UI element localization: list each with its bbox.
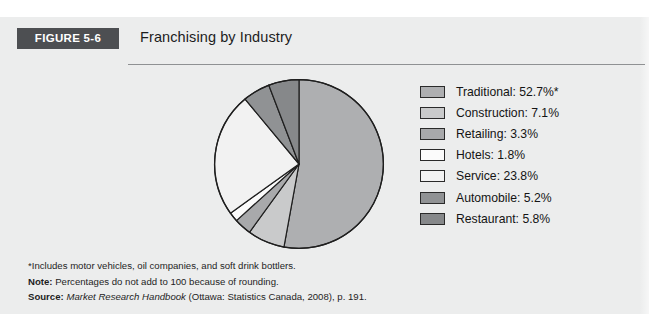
footnote-source: Source: Market Research Handbook (Ottawa… — [28, 289, 588, 305]
figure-number-label: FIGURE 5-6 — [17, 28, 119, 49]
legend-item: Restaurant: 5.8% — [420, 208, 635, 229]
footnote-note-text: Percentages do not add to 100 because of… — [55, 276, 279, 287]
legend-item: Automobile: 5.2% — [420, 187, 635, 208]
footnote-source-title: Market Research Handbook — [66, 291, 185, 302]
legend-swatch — [420, 107, 445, 119]
footnote-source-label: Source: — [28, 291, 64, 302]
footnote-asterisk: *Includes motor vehicles, oil companies,… — [28, 258, 588, 274]
legend-swatch — [420, 192, 445, 204]
footnotes: *Includes motor vehicles, oil companies,… — [28, 258, 588, 305]
legend-label: Retailing: 3.3% — [456, 127, 538, 141]
legend-label: Hotels: 1.8% — [456, 148, 525, 162]
legend-label: Construction: 7.1% — [456, 106, 559, 120]
legend-label: Traditional: 52.7%* — [456, 85, 559, 99]
footnote-asterisk-text: *Includes motor vehicles, oil companies,… — [28, 260, 296, 271]
chart-legend: Traditional: 52.7%*Construction: 7.1%Ret… — [420, 81, 635, 229]
legend-swatch — [420, 170, 445, 182]
pie-slice-group — [215, 80, 384, 249]
pie-chart — [213, 78, 385, 250]
footnote-note-label: Note: — [28, 276, 53, 287]
legend-label: Service: 23.8% — [456, 169, 538, 183]
legend-swatch — [420, 149, 445, 161]
legend-swatch — [420, 86, 445, 98]
pie-chart-svg — [213, 78, 385, 250]
legend-item: Construction: 7.1% — [420, 102, 635, 123]
legend-label: Automobile: 5.2% — [456, 191, 552, 205]
footnote-note: Note: Percentages do not add to 100 beca… — [28, 274, 588, 290]
panel-edge-shade — [640, 17, 649, 314]
legend-label: Restaurant: 5.8% — [456, 212, 550, 226]
legend-item: Hotels: 1.8% — [420, 145, 635, 166]
figure-title: Franchising by Industry — [140, 29, 292, 45]
chart-area: Traditional: 52.7%*Construction: 7.1%Ret… — [130, 70, 640, 255]
legend-item: Service: 23.8% — [420, 166, 635, 187]
footnote-source-rest: (Ottawa: Statistics Canada, 2008), p. 19… — [189, 291, 367, 302]
legend-swatch — [420, 213, 445, 225]
figure-page: FIGURE 5-6 Franchising by Industry Tradi… — [0, 0, 660, 331]
legend-swatch — [420, 128, 445, 140]
figure-number-banner: FIGURE 5-6 — [17, 28, 119, 49]
legend-item: Traditional: 52.7%* — [420, 81, 635, 102]
legend-item: Retailing: 3.3% — [420, 123, 635, 144]
header-divider-rule — [128, 64, 645, 65]
